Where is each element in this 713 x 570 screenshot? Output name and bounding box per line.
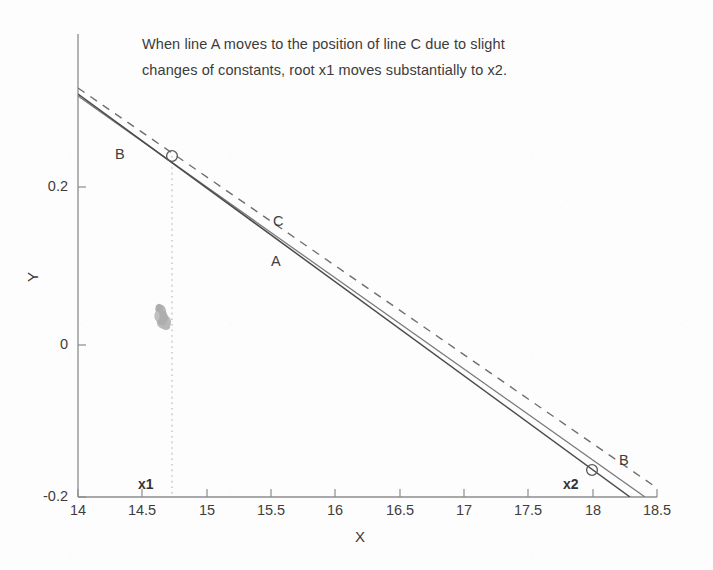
plot-area (0, 0, 713, 570)
x-tick-label-16.5: 16.5 (375, 502, 425, 518)
x-axis-title: X (355, 528, 365, 545)
annotation-text-line-2: changes of constants, root x1 moves subs… (142, 62, 507, 78)
y-axis-ticks (78, 187, 86, 497)
series-label-b-right: B (619, 452, 629, 468)
x-tick-label-18.5: 18.5 (632, 502, 682, 518)
figure-canvas: When line A moves to the position of lin… (0, 0, 713, 570)
x-tick-label-14.5: 14.5 (117, 502, 167, 518)
root-label-x1: x1 (138, 476, 154, 492)
series-line-c (78, 88, 657, 488)
data-cluster-smudge (154, 304, 171, 330)
x-tick-label-17: 17 (444, 502, 484, 518)
x-tick-label-15: 15 (187, 502, 227, 518)
y-tick-label-0: 0 (28, 336, 68, 352)
axis-lines (78, 34, 657, 497)
x-tick-label-16: 16 (315, 502, 355, 518)
annotation-text-line-1: When line A moves to the position of lin… (142, 36, 505, 52)
x-tick-label-15.5: 15.5 (246, 502, 296, 518)
series-line-a (78, 94, 630, 497)
series-label-a: A (271, 253, 281, 269)
y-axis-title: Y (24, 272, 41, 282)
x-tick-label-14: 14 (58, 502, 98, 518)
x-tick-label-17.5: 17.5 (503, 502, 553, 518)
series-label-b-left: B (115, 146, 125, 162)
series-label-c: C (273, 213, 283, 229)
y-tick-label-0.2: 0.2 (28, 178, 68, 194)
root-label-x2: x2 (563, 476, 579, 492)
x-tick-label-18: 18 (573, 502, 613, 518)
